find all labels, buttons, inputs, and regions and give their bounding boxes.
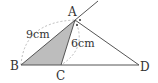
point-label-c: C xyxy=(56,69,65,83)
length-label-ac: 6cm xyxy=(71,37,95,50)
angle-mark-dot-1 xyxy=(79,19,81,21)
geometry-figure: A B C D 9cm 6cm xyxy=(0,0,158,83)
angle-mark-dot-2 xyxy=(76,24,78,26)
point-label-b: B xyxy=(10,59,19,73)
point-label-d: D xyxy=(140,60,150,74)
point-label-a: A xyxy=(67,5,77,19)
length-label-ba: 9cm xyxy=(26,28,50,41)
